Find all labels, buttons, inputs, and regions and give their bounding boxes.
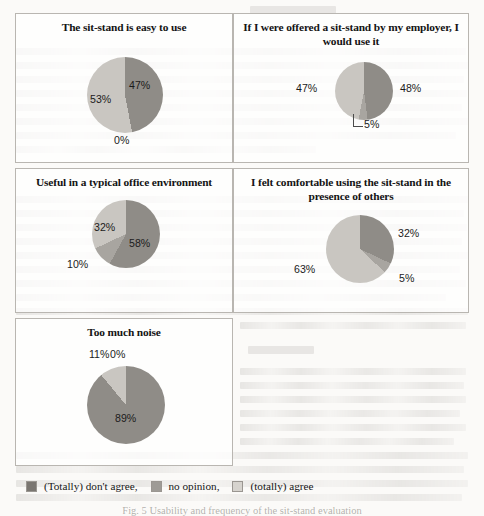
pie-label-dont-agree: 0% — [110, 348, 125, 360]
chart-title: Too much noise — [16, 326, 232, 340]
chart-title: If I were offered a sit-stand by my empl… — [234, 21, 468, 48]
chart-panel-too-much-noise: Too much noise 11% 0% 89% — [15, 318, 233, 466]
pie-chart-sit-stand-easy-to-use: 47% 53% 0% — [16, 35, 232, 147]
chart-title: I felt comfortable using the sit-stand i… — [234, 176, 468, 203]
pie-leader-line-dont-agree — [353, 114, 363, 127]
pie-label-dont-agree: 0% — [114, 134, 129, 146]
pie-chart-useful-office-environment: 58% 32% 10% — [16, 190, 232, 288]
pie-label-no-opinion: 11% — [89, 348, 109, 360]
pie-slice-agree — [326, 215, 394, 283]
pie-label-no-opinion: 47% — [296, 82, 317, 94]
chart-panel-sit-stand-easy-to-use: The sit-stand is easy to use 47% 53% 0% — [15, 13, 233, 163]
legend-label-dont-agree: (Totally) don't agree, — [44, 480, 138, 492]
pie-label-agree: 48% — [400, 82, 421, 94]
pie-label-agree: 89% — [115, 412, 136, 424]
pie-slice-agree — [335, 62, 393, 120]
legend-label-no-opinion: no opinion, — [169, 480, 220, 492]
pie-label-dont-agree: 10% — [67, 258, 88, 270]
pie-chart-too-much-noise: 11% 0% 89% — [16, 340, 232, 450]
pie-label-agree: 32% — [398, 227, 419, 239]
chart-panel-useful-office-environment: Useful in a typical office environment 5… — [15, 168, 233, 313]
legend-swatch-icon-dont-agree — [26, 481, 37, 492]
chart-panel-comfortable-presence-of-others: I felt comfortable using the sit-stand i… — [233, 168, 469, 313]
chart-panel-offered-by-employer: If I were offered a sit-stand by my empl… — [233, 13, 469, 163]
chart-title: The sit-stand is easy to use — [16, 21, 232, 35]
pie-slice-agree — [92, 200, 160, 268]
pie-chart-comfortable-presence-of-others: 32% 63% 5% — [234, 203, 468, 295]
pie-label-agree: 58% — [129, 237, 150, 249]
pie-label-no-opinion: 32% — [94, 221, 115, 233]
legend-item-dont-agree: (Totally) don't agree, — [26, 480, 138, 492]
legend-item-totally-agree: (totally) agree — [232, 480, 313, 492]
legend-swatch-icon-totally-agree — [232, 481, 243, 492]
pie-slice-agree — [87, 366, 165, 444]
figure-caption: Fig. 5 Usability and frequency of the si… — [0, 505, 484, 516]
chart-title: Useful in a typical office environment — [16, 176, 232, 190]
pie-label-dont-agree: 5% — [399, 272, 414, 284]
legend-item-no-opinion: no opinion, — [151, 480, 220, 492]
pie-label-agree: 47% — [129, 79, 150, 91]
chart-legend: (Totally) don't agree, no opinion, (tota… — [26, 480, 327, 492]
legend-swatch-icon-no-opinion — [151, 481, 162, 492]
pie-chart-offered-by-employer: 48% 47% 5% — [234, 48, 468, 134]
pie-label-dont-agree: 5% — [364, 118, 379, 130]
pie-label-no-opinion: 53% — [90, 93, 111, 105]
legend-label-totally-agree: (totally) agree — [250, 480, 313, 492]
pie-label-no-opinion: 63% — [294, 263, 315, 275]
